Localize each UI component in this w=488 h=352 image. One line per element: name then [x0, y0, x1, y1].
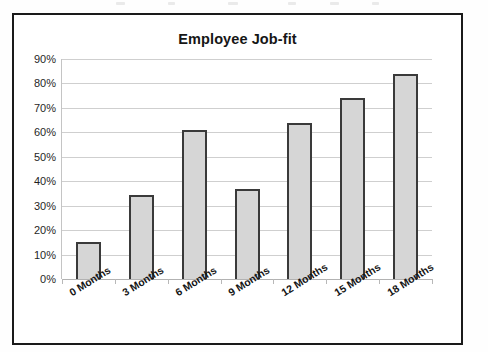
bar — [129, 195, 154, 279]
y-axis-tick-label: 60% — [34, 126, 56, 138]
x-axis-tick — [221, 279, 222, 284]
chart-frame: Employee Job-fit 0%10%20%30%40%50%60%70%… — [12, 13, 463, 345]
gridline-60pct: 60% — [62, 132, 432, 133]
bar — [393, 74, 418, 279]
x-axis-tick — [379, 279, 380, 284]
gridline-50pct: 50% — [62, 157, 432, 158]
y-axis-line — [61, 59, 62, 279]
scan-artifact — [116, 2, 125, 5]
x-axis-tick — [273, 279, 274, 284]
y-axis-tick-label: 30% — [34, 200, 56, 212]
x-axis-tick — [168, 279, 169, 284]
scan-artifact — [372, 2, 379, 5]
gridline-70pct: 70% — [62, 108, 432, 109]
y-axis-tick-label: 10% — [34, 249, 56, 261]
x-axis-tick — [432, 279, 433, 284]
y-axis-tick-label: 90% — [34, 53, 56, 65]
gridline-40pct: 40% — [62, 181, 432, 182]
gridline-90pct: 90% — [62, 59, 432, 60]
plot-area: 0%10%20%30%40%50%60%70%80%90% 0 Months3 … — [62, 59, 432, 279]
gridline-80pct: 80% — [62, 83, 432, 84]
y-axis-tick-label: 20% — [34, 224, 56, 236]
bar — [182, 130, 207, 279]
scan-artifact — [228, 2, 238, 5]
chart-title: Employee Job-fit — [14, 31, 461, 47]
y-axis-tick-label: 0% — [40, 273, 56, 285]
x-axis-tick — [115, 279, 116, 284]
chart-page: Employee Job-fit 0%10%20%30%40%50%60%70%… — [0, 0, 488, 352]
scan-artifact — [330, 2, 339, 5]
bar — [235, 189, 260, 279]
x-axis-tick — [62, 279, 63, 284]
bar — [340, 98, 365, 279]
bar — [287, 123, 312, 279]
scan-artifact — [168, 2, 175, 5]
x-axis-tick — [326, 279, 327, 284]
scan-artifact — [288, 2, 296, 5]
y-axis-tick-label: 70% — [34, 102, 56, 114]
y-axis-tick-label: 40% — [34, 175, 56, 187]
y-axis-tick-label: 50% — [34, 151, 56, 163]
y-axis-tick-label: 80% — [34, 77, 56, 89]
